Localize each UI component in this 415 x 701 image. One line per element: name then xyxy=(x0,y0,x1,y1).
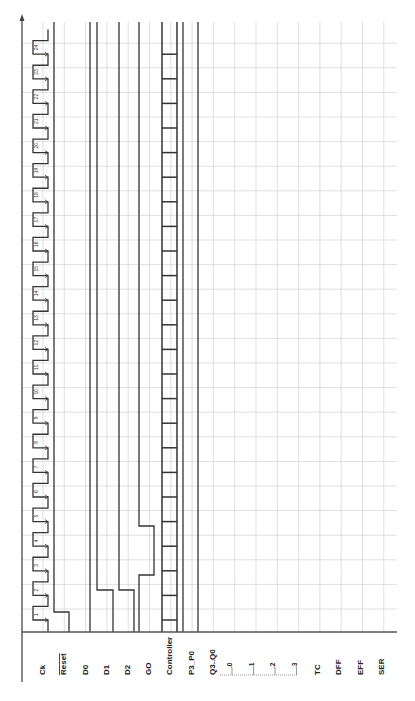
timing-diagram: 123456789101112131415161718192021222324 … xyxy=(0,0,415,701)
clock-cycle-label: 6 xyxy=(33,490,39,493)
clock-cycle-label: 10 xyxy=(33,389,39,395)
clock-cycle-label: 2 xyxy=(33,588,39,591)
reset-waveform xyxy=(54,22,69,632)
d1-waveform xyxy=(97,22,113,632)
signal-label-d1: D1 xyxy=(102,664,111,675)
clock-cycle-label: 8 xyxy=(33,441,39,444)
signal-label-ck: Ck xyxy=(38,664,47,675)
clock-cycle-label: 17 xyxy=(33,217,39,223)
clock-cycle-label: 7 xyxy=(33,465,39,468)
signal-label-dff: DFF xyxy=(334,659,343,675)
signal-labels: CkResetD0D1D2GOControllerP3_P0Q3..Q0.0.1… xyxy=(38,637,386,675)
signal-label-eff: EFF xyxy=(356,660,365,675)
time-arrow-icon xyxy=(20,14,25,21)
clock-cycle-label: 5 xyxy=(33,515,39,518)
signal-label-p3-p0: P3_P0 xyxy=(187,650,196,675)
signal-label-ser: SER xyxy=(377,658,386,675)
waveforms: 123456789101112131415161718192021222324 xyxy=(33,22,198,632)
clock-cycle-label: 1 xyxy=(33,613,39,616)
signal-label-reset: Reset xyxy=(59,653,68,675)
clock-cycle-label: 9 xyxy=(33,416,39,419)
grid-lines xyxy=(22,22,397,632)
signal-label-d2: D2 xyxy=(123,664,132,675)
d2-waveform xyxy=(119,22,134,632)
clock-cycle-label: 12 xyxy=(33,340,39,346)
clock-cycle-label: 14 xyxy=(33,290,39,296)
signal-label-d0: D0 xyxy=(81,664,90,675)
clock-cycle-label: 24 xyxy=(33,44,39,50)
clock-cycle-label: 19 xyxy=(33,167,39,173)
q-sub-label: .0 xyxy=(226,662,233,668)
q-sub-label: .1 xyxy=(248,662,255,668)
clock-cycle-label: 4 xyxy=(33,539,39,542)
signal-label-q3-q0: Q3..Q0 xyxy=(208,649,217,675)
q-sub-label: .2 xyxy=(269,662,276,668)
axes xyxy=(20,14,398,682)
clock-cycle-label: 21 xyxy=(33,118,39,124)
q-sub-label: .3 xyxy=(291,662,298,668)
clock-cycle-label: 13 xyxy=(33,315,39,321)
clock-cycle-label: 23 xyxy=(33,69,39,75)
clock-cycle-label: 3 xyxy=(33,564,39,567)
signal-label-go: GO xyxy=(144,663,153,675)
signal-label-controller: Controller xyxy=(165,637,174,675)
clock-cycle-label: 22 xyxy=(33,94,39,100)
clock-cycle-label: 11 xyxy=(33,365,39,370)
signal-label-tc: TC xyxy=(313,664,322,675)
clock-cycle-label: 15 xyxy=(33,266,39,272)
clock-cycle-label: 16 xyxy=(33,241,39,247)
clock-cycle-label: 20 xyxy=(33,143,39,149)
clock-cycle-label: 18 xyxy=(33,192,39,198)
go-waveform xyxy=(139,22,154,632)
